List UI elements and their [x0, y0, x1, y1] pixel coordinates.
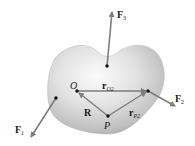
- label-o: O: [70, 81, 77, 91]
- point-f2-application: [146, 89, 149, 92]
- label-f2: F2: [175, 94, 184, 105]
- diagram-graphics: [0, 0, 195, 146]
- label-r-p2: rP2: [129, 108, 140, 119]
- label-f3-sub: 3: [123, 15, 126, 21]
- label-r-p2-sub: P2: [133, 113, 140, 119]
- force-f1-arrow: [31, 98, 56, 137]
- label-f3: F3: [117, 10, 126, 21]
- rigid-body-force-diagram: F3 O rO2 F2 R rP2 P F1: [0, 0, 195, 146]
- point-f3-application: [105, 64, 108, 67]
- label-r: R: [84, 108, 91, 118]
- label-f2-sub: 2: [181, 99, 184, 105]
- label-r-o2: rO2: [102, 81, 114, 92]
- label-f1: F1: [15, 125, 24, 136]
- label-p: P: [104, 121, 110, 131]
- label-r-o2-sub: O2: [106, 86, 113, 92]
- label-f1-sub: 1: [21, 130, 24, 136]
- point-f1-application: [54, 96, 57, 99]
- point-p: [106, 114, 109, 117]
